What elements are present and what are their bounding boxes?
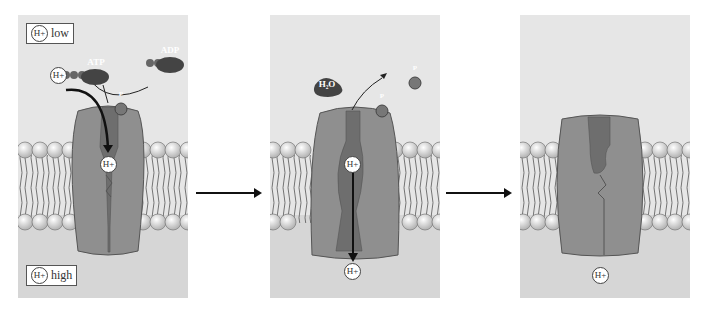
phosphate-label: P [116, 90, 126, 98]
h-ion-bound: H+ [344, 156, 361, 173]
membrane-pump-diagram [520, 15, 690, 298]
concentration-text: high [51, 268, 72, 283]
panel-step-1: H+ low ATP ADP P H+ H+ H+ high [18, 15, 188, 298]
h-ion-released: H+ [344, 263, 361, 280]
atp-label: ATP [84, 57, 108, 67]
h-ion-icon: H+ [31, 267, 48, 284]
released-phosphate-label: P [410, 64, 420, 72]
h-ion-bound: H+ [100, 156, 117, 173]
h-ion-icon: H+ [31, 25, 48, 42]
step-arrow-1 [196, 192, 260, 194]
water-label: H₂O [316, 79, 338, 89]
adp-label: ADP [158, 45, 182, 55]
panel-step-2: H₂O P P H+ H+ [270, 15, 440, 298]
phosphate-label: P [377, 92, 387, 100]
h-low-label: H+ low [26, 23, 74, 44]
h-high-label: H+ high [26, 265, 77, 286]
panel-step-3: H+ [520, 15, 690, 298]
concentration-text: low [51, 26, 69, 41]
step-arrow-2 [446, 192, 510, 194]
h-ion-released: H+ [592, 267, 609, 284]
h-ion-free: H+ [50, 67, 67, 84]
